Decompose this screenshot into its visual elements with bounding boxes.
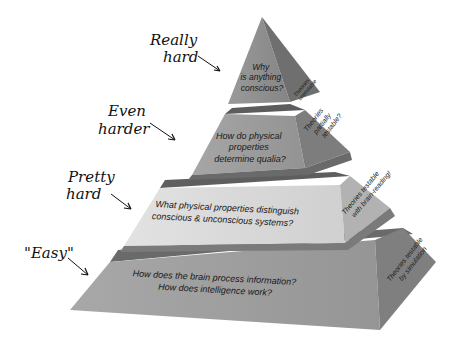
arrow-icon	[68, 258, 88, 275]
svg-text:Even harder: Even harder	[98, 102, 151, 138]
arrow-icon	[111, 194, 131, 209]
consciousness-pyramid-diagram: Why is anything conscious? Theories unte…	[0, 0, 455, 341]
label-easy: "Easy"	[24, 244, 88, 275]
arrow-icon	[150, 123, 175, 140]
label-pretty-hard: Pretty hard	[66, 168, 131, 209]
svg-text:"Easy": "Easy"	[24, 244, 74, 262]
svg-text:Pretty hard: Pretty hard	[66, 168, 119, 203]
arrow-icon	[198, 56, 220, 71]
label-even-harder: Even harder	[98, 102, 175, 140]
tier-4-side-face	[375, 228, 436, 330]
label-really-hard: Really hard	[149, 31, 220, 71]
tier-2-top-ledge	[225, 104, 305, 114]
svg-text:Really hard: Really hard	[149, 31, 202, 66]
